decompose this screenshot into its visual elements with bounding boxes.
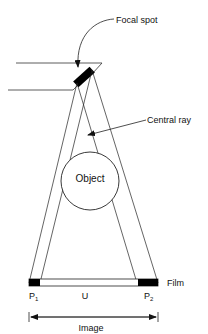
umbra-label: U <box>82 291 89 301</box>
penumbra-p2-region <box>138 279 158 286</box>
film-strip <box>29 279 158 286</box>
penumbra-p1-region <box>29 279 40 286</box>
penumbra-p1-label: P1 <box>29 291 39 302</box>
central-ray-leader <box>88 120 146 135</box>
film-label: Film <box>167 278 184 288</box>
focal-spot-label: Focal spot <box>116 15 158 25</box>
image-dimension-arrow <box>29 312 158 322</box>
focal-spot-leader <box>78 19 114 67</box>
radiography-diagram: Focal spot Central ray Object Film P1 U … <box>0 0 208 334</box>
penumbra-p2-label: P2 <box>144 291 154 302</box>
image-label: Image <box>78 323 103 333</box>
central-ray-label: Central ray <box>147 115 192 125</box>
object-label: Object <box>76 173 105 184</box>
